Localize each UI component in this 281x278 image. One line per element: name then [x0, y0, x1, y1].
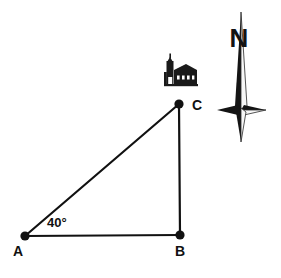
church-window-3: [187, 76, 190, 80]
vertex-label-b: B: [175, 243, 185, 259]
edge-bc: [179, 104, 180, 235]
church-door: [168, 77, 172, 85]
diagram-canvas: A B C 40°: [0, 0, 281, 278]
geometry-diagram: A B C 40°: [0, 0, 281, 278]
vertex-label-a: A: [13, 243, 23, 259]
church-buttress: [164, 72, 167, 85]
church-window-1: [177, 76, 180, 80]
church-window-4: [192, 76, 194, 80]
vertex-dot-b: [175, 230, 184, 239]
edge-ab: [25, 235, 180, 236]
church-base: [164, 84, 198, 86]
church-cross-vertical: [169, 54, 171, 59]
angle-label-a: 40°: [47, 215, 67, 230]
compass-north-letter: N: [230, 23, 249, 53]
church-window-2: [182, 76, 185, 80]
vertex-label-c: C: [192, 97, 202, 113]
vertex-dot-c: [174, 99, 183, 108]
vertex-dot-a: [20, 231, 29, 240]
